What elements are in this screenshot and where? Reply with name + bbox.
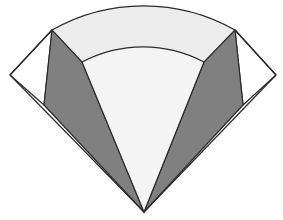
geometric-figure: Geometric fan diagram A symmetric diamon… <box>0 0 283 220</box>
